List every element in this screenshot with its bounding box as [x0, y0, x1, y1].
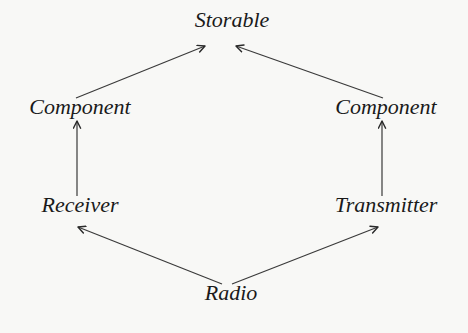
diagram-page: Storable Component Component Receiver Tr… [0, 0, 468, 333]
node-storable: Storable [195, 7, 270, 32]
edge-component-left-to-storable [76, 46, 205, 98]
node-transmitter: Transmitter [335, 192, 438, 217]
node-component-left: Component [29, 94, 131, 119]
node-radio: Radio [204, 280, 258, 305]
node-component-right: Component [335, 94, 437, 119]
edge-component-right-to-storable [236, 46, 383, 98]
inheritance-diagram: Storable Component Component Receiver Tr… [0, 0, 468, 333]
node-receiver: Receiver [41, 192, 119, 217]
edge-radio-to-receiver [78, 227, 222, 284]
edge-radio-to-transmitter [232, 227, 378, 284]
